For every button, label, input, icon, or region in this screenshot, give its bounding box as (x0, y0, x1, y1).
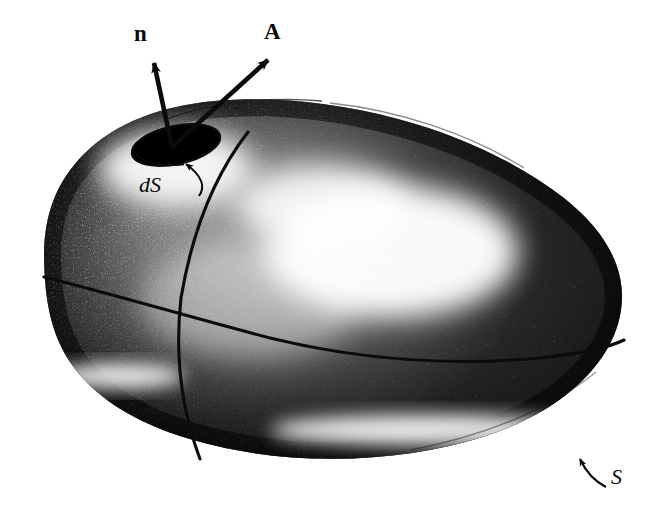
label-normal-vector-n: n (134, 22, 147, 45)
upper-highlight (236, 165, 408, 245)
surface-diagram-svg (0, 0, 645, 509)
mid-left-soften (140, 242, 360, 358)
closed-surface-S (0, 60, 645, 509)
label-area-element-dS: dS (139, 174, 161, 196)
label-surface-S: S (611, 466, 622, 488)
S-leader-line (580, 459, 606, 487)
figure-canvas: n A dS S (0, 0, 645, 509)
lower-rim-highlight (270, 414, 590, 446)
label-field-vector-A: A (264, 20, 281, 43)
left-rim-highlight (52, 363, 184, 389)
